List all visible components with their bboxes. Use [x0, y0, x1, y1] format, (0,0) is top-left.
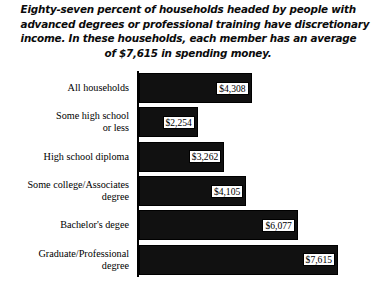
- category-label-line-1: High school diploma: [44, 151, 129, 162]
- chart-title-line-1: Eighty-seven percent of households heade…: [21, 3, 356, 18]
- category-label-line-1: All households: [68, 82, 129, 93]
- bar-value-label: $4,105: [211, 185, 243, 198]
- bar-value-label: $3,262: [189, 150, 221, 163]
- bar-row: $4,105: [139, 174, 340, 208]
- category-label-row: Some college/Associates degree: [0, 174, 133, 208]
- category-label-line-2: degree: [38, 260, 129, 272]
- bar-row: $2,254: [139, 105, 340, 139]
- bar-high-school-diploma: $3,262: [139, 142, 224, 172]
- category-label-high-school-diploma: High school diploma: [44, 151, 133, 163]
- bar-bachelors-degree: $6,077: [139, 210, 298, 240]
- category-label-row: Graduate/Professional degree: [0, 243, 133, 277]
- bar-value-label: $2,254: [163, 116, 195, 129]
- bar-row: $3,262: [139, 140, 340, 174]
- bar-graduate-professional-degree: $7,615: [139, 245, 338, 275]
- bar-value-label: $6,077: [262, 219, 294, 232]
- category-label-line-1: Graduate/Professional: [38, 248, 129, 259]
- category-label-some-high-school-or-less: Some high school or less: [56, 110, 133, 134]
- category-label-line-2: degree: [27, 191, 129, 203]
- category-label-graduate-professional-degree: Graduate/Professional degree: [38, 248, 133, 272]
- category-axis-labels: All households Some high school or less …: [0, 71, 133, 277]
- chart-title-line-2: advanced degrees or professional trainin…: [21, 18, 356, 33]
- category-label-row: Some high school or less: [0, 105, 133, 139]
- plot-area: $4,308 $2,254 $3,262 $4,105 $6,0: [137, 71, 340, 277]
- category-label-line-2: or less: [56, 122, 129, 134]
- category-label-line-1: Some high school: [56, 110, 129, 121]
- chart-figure: Eighty-seven percent of households heade…: [0, 0, 376, 291]
- bar-row: $7,615: [139, 243, 340, 277]
- bar-value-label: $4,308: [216, 82, 248, 95]
- category-label-row: High school diploma: [0, 140, 133, 174]
- category-label-line-1: Bachelor's degee: [60, 219, 129, 230]
- chart-title-line-4: of $7,615 in spending money.: [21, 47, 356, 62]
- bar-value-label: $7,615: [303, 253, 335, 266]
- bar-row: $6,077: [139, 208, 340, 242]
- bar-all-households: $4,308: [139, 73, 252, 103]
- bar-some-college-associates-degree: $4,105: [139, 176, 246, 206]
- bar-series: $4,308 $2,254 $3,262 $4,105 $6,0: [139, 71, 340, 277]
- category-label-row: All households: [0, 71, 133, 105]
- category-label-bachelors-degree: Bachelor's degee: [60, 219, 133, 231]
- category-label-all-households: All households: [68, 82, 133, 94]
- category-label-some-college-associates-degree: Some college/Associates degree: [27, 179, 133, 203]
- category-label-line-1: Some college/Associates: [27, 179, 129, 190]
- chart-title-line-3: income. In these households, each member…: [21, 32, 356, 47]
- bar-row: $4,308: [139, 71, 340, 105]
- bar-some-high-school-or-less: $2,254: [139, 107, 198, 137]
- category-label-row: Bachelor's degee: [0, 208, 133, 242]
- chart-title: Eighty-seven percent of households heade…: [21, 3, 356, 61]
